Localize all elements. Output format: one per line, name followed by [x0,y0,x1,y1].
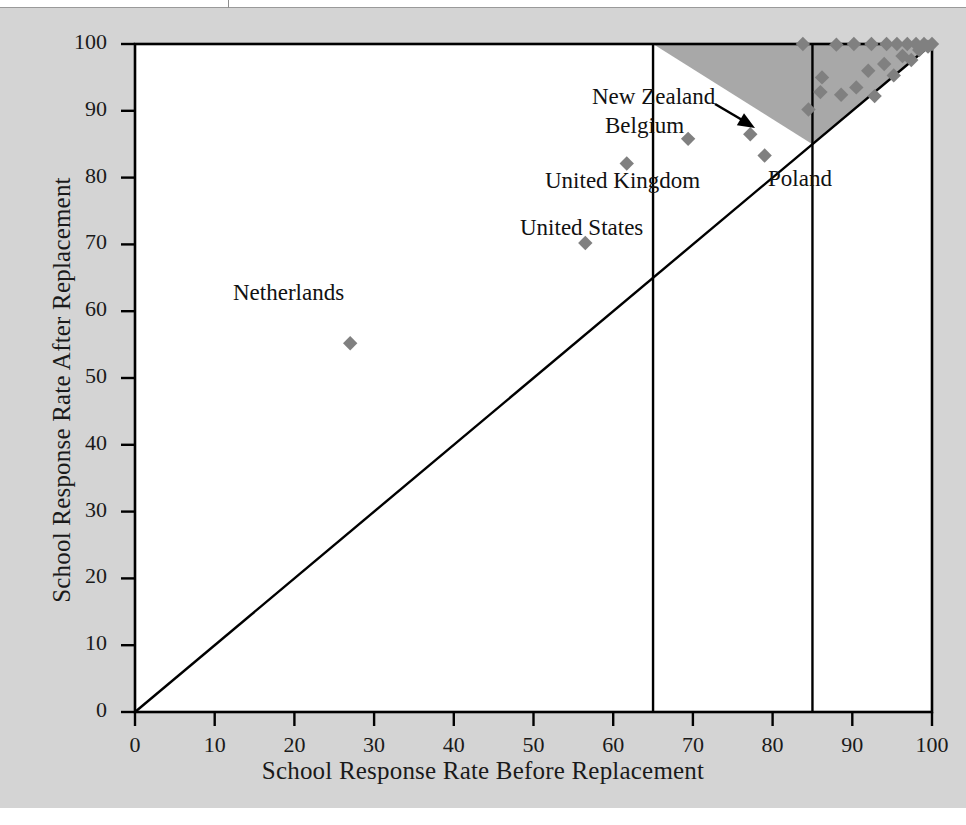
x-tick-label: 60 [583,732,643,758]
poland-label: Poland [768,166,832,192]
new-zealand-label: New Zealand [592,84,715,110]
x-tick-label: 10 [185,732,245,758]
x-tick-label: 30 [344,732,404,758]
x-tick-label: 40 [424,732,484,758]
x-axis-title: School Response Rate Before Replacement [0,757,966,785]
netherlands-label: Netherlands [233,280,344,306]
belgium-label: Belgium [605,113,684,139]
x-tick-label: 90 [822,732,882,758]
figure-page: 0102030405060708090100 01020304050607080… [0,0,966,825]
united-states-label: United States [520,215,643,241]
y-axis-ticks [121,44,135,712]
y-axis-title: School Response Rate After Replacement [48,10,76,770]
x-tick-label: 50 [504,732,564,758]
united-kingdom-label: United Kingdom [545,168,700,194]
x-axis-ticks [135,712,932,726]
x-tick-label: 80 [743,732,803,758]
x-tick-label: 70 [663,732,723,758]
x-tick-label: 100 [902,732,962,758]
x-tick-label: 20 [264,732,324,758]
x-tick-label: 0 [105,732,165,758]
scatter-plot [0,0,966,825]
